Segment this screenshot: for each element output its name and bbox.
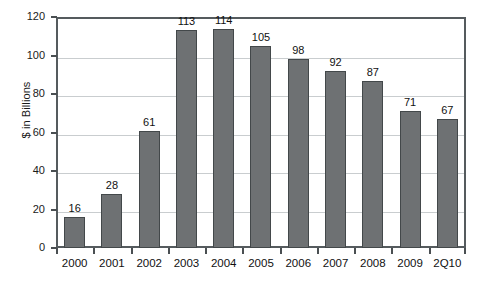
- bar-value-label: 67: [427, 105, 468, 116]
- x-tick-mark: [317, 248, 319, 254]
- x-tick-mark: [168, 248, 170, 254]
- y-tick-label: 120: [11, 11, 45, 22]
- bar-value-label: 114: [203, 15, 244, 26]
- y-tick-label: 40: [11, 165, 45, 176]
- x-tick-mark: [242, 248, 244, 254]
- bar-group[interactable]: 16: [56, 17, 93, 248]
- bar[interactable]: [362, 81, 383, 248]
- bar[interactable]: [250, 46, 271, 248]
- bar[interactable]: [400, 111, 421, 248]
- x-tick-mark: [464, 248, 466, 254]
- y-tick-label: 20: [11, 204, 45, 215]
- bar[interactable]: [139, 131, 160, 248]
- bar-group[interactable]: 113: [168, 17, 205, 248]
- bar-value-label: 71: [390, 97, 431, 108]
- bar-group[interactable]: 61: [131, 17, 168, 248]
- bar-group[interactable]: 98: [280, 17, 317, 248]
- bar-chart: $ in Billions 020406080100120 1628611131…: [0, 0, 479, 284]
- x-tick-mark: [131, 248, 133, 254]
- y-tick-label: 0: [11, 242, 45, 253]
- bar[interactable]: [437, 119, 458, 248]
- bar-value-label: 98: [278, 45, 319, 56]
- x-tick-mark: [429, 248, 431, 254]
- y-tick-label: 100: [11, 50, 45, 61]
- bar-value-label: 61: [129, 117, 170, 128]
- x-tick-mark: [93, 248, 95, 254]
- bar-group[interactable]: 71: [391, 17, 428, 248]
- bar-group[interactable]: 92: [317, 17, 354, 248]
- bar[interactable]: [288, 59, 309, 248]
- bar-value-label: 92: [315, 57, 356, 68]
- x-tick-mark: [205, 248, 207, 254]
- bar[interactable]: [176, 30, 197, 248]
- bar-group[interactable]: 87: [354, 17, 391, 248]
- bar-value-label: 28: [91, 180, 132, 191]
- bar-group[interactable]: 114: [205, 17, 242, 248]
- bar-group[interactable]: 67: [429, 17, 466, 248]
- bar-value-label: 87: [352, 67, 393, 78]
- bars-series: 1628611131141059892877167: [56, 17, 466, 248]
- x-tick-mark: [280, 248, 282, 254]
- bar-group[interactable]: 28: [93, 17, 130, 248]
- bar[interactable]: [101, 194, 122, 248]
- bar-group[interactable]: 105: [242, 17, 279, 248]
- y-tick-label: 80: [11, 88, 45, 99]
- x-axis-labels: 2000200120022003200420052006200720082009…: [56, 258, 466, 276]
- x-axis-ticks: [56, 248, 466, 256]
- x-tick-mark: [391, 248, 393, 254]
- bar[interactable]: [325, 71, 346, 248]
- bar-value-label: 105: [241, 32, 282, 43]
- x-tick-mark: [354, 248, 356, 254]
- x-tick-mark: [56, 248, 58, 254]
- bar[interactable]: [213, 29, 234, 248]
- bar-value-label: 113: [166, 16, 207, 27]
- bar[interactable]: [64, 217, 85, 248]
- y-tick-label: 60: [11, 127, 45, 138]
- bar-value-label: 16: [54, 203, 95, 214]
- x-tick-label: 2Q10: [425, 258, 469, 270]
